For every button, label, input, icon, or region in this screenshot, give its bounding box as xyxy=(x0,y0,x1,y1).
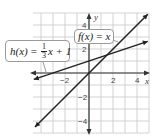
h-function-label: h(x) = 1 3 x + 1 xyxy=(5,40,70,62)
h-line-end-arrow-icon xyxy=(142,41,148,46)
y-axis-down-arrow-icon xyxy=(87,129,92,135)
x-axis-left-arrow-icon xyxy=(30,71,36,76)
x-tick-label: 4 xyxy=(135,76,140,85)
y-axis-label: y xyxy=(93,12,98,22)
y-tick-label: −4 xyxy=(78,117,88,126)
f-expression: x xyxy=(105,31,110,42)
y-tick-label: 2 xyxy=(82,45,87,54)
f-equals: = xyxy=(96,31,102,42)
h-expression-rest: x + 1 xyxy=(48,46,71,57)
coordinate-graph: −22442−2−4 x y xyxy=(0,0,154,139)
f-function-label: f(x) = x xyxy=(74,29,114,44)
y-tick-label: −2 xyxy=(78,93,88,102)
h-name: h(x) xyxy=(10,46,28,57)
x-axis-label: x xyxy=(144,76,149,86)
y-axis-up-arrow-icon xyxy=(87,13,92,19)
h-equals: = xyxy=(31,46,37,57)
h-fraction-denominator: 3 xyxy=(42,52,46,60)
h-fraction: 1 3 xyxy=(41,43,47,60)
x-tick-label: 2 xyxy=(111,76,116,85)
h-line-start-arrow-icon xyxy=(34,75,40,80)
x-tick-label: −2 xyxy=(60,76,70,85)
f-name: f(x) xyxy=(78,31,93,42)
